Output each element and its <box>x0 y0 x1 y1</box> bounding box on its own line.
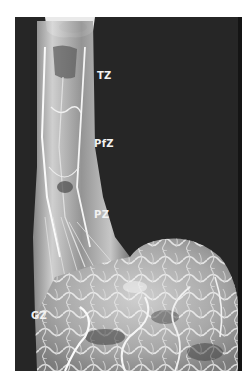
label-tz: TZ <box>97 71 112 81</box>
vascular-cast-image: TZ PfZ PZ GZ <box>15 17 242 371</box>
label-pfz: PfZ <box>94 139 114 149</box>
vascular-cast-illustration <box>15 17 242 371</box>
label-gz: GZ <box>31 311 47 321</box>
label-pz: PZ <box>94 210 109 220</box>
